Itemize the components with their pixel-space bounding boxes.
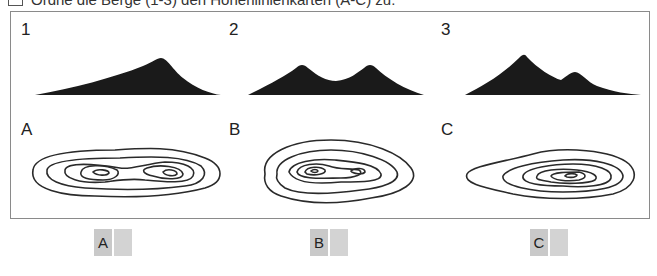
answer-tag-c: C xyxy=(530,229,548,256)
mountain-2-silhouette xyxy=(246,48,426,98)
answer-group-b: B xyxy=(310,229,348,256)
contour-map-b xyxy=(251,134,421,210)
contour-map-c xyxy=(463,140,643,204)
mountain-label-2: 2 xyxy=(229,20,238,40)
mountain-label-3: 3 xyxy=(441,20,450,40)
task-heading: Ordne die Berge (1-3) den Höhenlinienkar… xyxy=(8,0,395,9)
mountain-1-silhouette xyxy=(33,48,223,98)
contour-label-b: B xyxy=(229,120,240,140)
answer-slot-b[interactable] xyxy=(330,229,348,256)
contour-label-a: A xyxy=(21,120,32,140)
mountain-3-silhouette xyxy=(463,48,643,98)
mountain-label-1: 1 xyxy=(21,20,30,40)
checkbox-icon xyxy=(8,0,23,6)
task-heading-text: Ordne die Berge (1-3) den Höhenlinienkar… xyxy=(31,0,395,9)
answer-tag-a: A xyxy=(94,229,112,256)
contour-label-c: C xyxy=(441,120,453,140)
exercise-frame: 1 2 3 A B C xyxy=(10,11,650,219)
answer-slot-a[interactable] xyxy=(114,229,132,256)
answer-tag-b: B xyxy=(310,229,328,256)
answer-group-c: C xyxy=(530,229,568,256)
answer-group-a: A xyxy=(94,229,132,256)
answer-slot-c[interactable] xyxy=(550,229,568,256)
contour-map-a xyxy=(25,140,225,210)
